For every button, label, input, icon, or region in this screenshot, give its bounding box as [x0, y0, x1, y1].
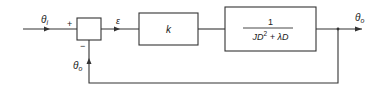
plant-denominator: JD2 + λD	[252, 30, 289, 42]
error-signal-line	[101, 27, 139, 32]
minus-sign: −	[80, 41, 85, 51]
summing-junction	[77, 18, 101, 40]
plant-block	[225, 7, 316, 51]
plant-numerator: 1	[268, 17, 273, 27]
output-arrow-icon	[355, 27, 362, 32]
feedback-signal-label: θo	[73, 60, 82, 72]
feedback-arrow-icon	[87, 58, 92, 64]
error-signal-label: ε	[116, 16, 121, 26]
plus-sign: +	[67, 19, 72, 29]
block-diagram: θi + − ε k 1 JD2 + λD θo	[0, 0, 382, 90]
error-arrow-icon	[114, 27, 120, 32]
output-signal-label: θo	[355, 12, 364, 24]
gain-label: k	[166, 24, 172, 35]
feedback-path	[87, 29, 339, 83]
input-arrow-icon	[44, 27, 50, 32]
input-signal-label: θi	[41, 14, 48, 26]
